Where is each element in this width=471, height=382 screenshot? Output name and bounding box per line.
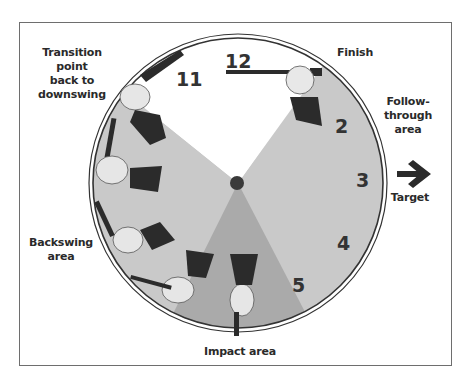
label-finish: Finish (325, 46, 385, 60)
clock-number-11: 11 (176, 68, 202, 90)
label-follow-through: Follow- through area (378, 95, 438, 137)
label-line: Transition point (30, 46, 114, 74)
clock-number-2: 2 (335, 115, 348, 137)
label-backswing: Backswing area (26, 236, 96, 264)
label-line: downswing (30, 88, 114, 102)
clock-number-5: 5 (292, 274, 305, 296)
label-target: Target (385, 191, 435, 205)
clock-number-3: 3 (356, 169, 369, 191)
clock-number-4: 4 (337, 232, 350, 254)
label-line: back to (30, 74, 114, 88)
label-line: Backswing (26, 236, 96, 250)
label-transition-point: Transition point back to downswing (30, 46, 114, 102)
clock-number-12: 12 (225, 50, 251, 72)
label-impact-area: Impact area (190, 345, 290, 359)
center-pivot-dot (230, 176, 244, 190)
label-line: area (378, 123, 438, 137)
right-arrow-icon (397, 160, 431, 188)
label-line: Follow- (378, 95, 438, 109)
label-line: area (26, 250, 96, 264)
label-line: through (378, 109, 438, 123)
